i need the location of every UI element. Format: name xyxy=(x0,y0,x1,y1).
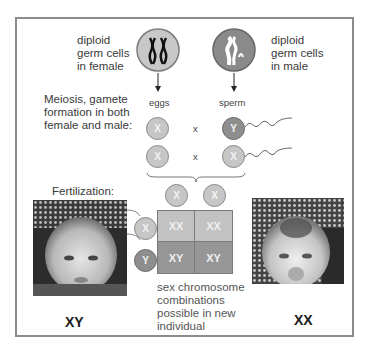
fertilization-label: Fertilization: xyxy=(52,185,114,198)
meiosis-label: Meiosis, gamete formation in both female… xyxy=(44,93,132,132)
label-line: in female xyxy=(77,60,129,73)
punnett-cell: XY xyxy=(195,242,232,273)
sperm-gamete: Y xyxy=(222,117,245,140)
punnett-side-y: Y xyxy=(134,249,157,272)
punnett-cell: XY xyxy=(158,242,195,273)
sperm-tails-icon xyxy=(244,115,294,165)
label-line: germ cells xyxy=(271,47,323,60)
label-line: sex chromosome xyxy=(157,281,245,294)
label-line: in male xyxy=(271,60,323,73)
egg-gamete: X xyxy=(146,145,169,168)
label-line: combinations xyxy=(157,294,245,307)
label-line: germ cells xyxy=(77,47,129,60)
arrow-to-eggs-icon xyxy=(157,73,159,93)
female-germ-cell-icon xyxy=(135,27,181,73)
baby-photo-xx xyxy=(252,198,344,284)
label-line: diploid xyxy=(271,34,323,47)
label-line: formation in both xyxy=(44,106,132,119)
label-line: diploid xyxy=(77,34,129,47)
combinations-label: sex chromosome combinations possible in … xyxy=(157,281,245,333)
punnett-side-x: X xyxy=(134,217,157,240)
punnett-top-x: X xyxy=(203,184,226,207)
punnett-cell: XX xyxy=(195,211,232,242)
punnett-top-x: X xyxy=(165,184,188,207)
baby-image-icon xyxy=(252,198,344,284)
egg-gamete: X xyxy=(146,117,169,140)
female-germ-label: diploid germ cells in female xyxy=(77,34,129,73)
cross-symbol: x xyxy=(193,150,198,163)
label-line: possible in new xyxy=(157,307,245,320)
label-line: Meiosis, gamete xyxy=(44,93,132,106)
arrow-to-sperm-icon xyxy=(233,73,235,93)
cross-symbol: x xyxy=(193,122,198,135)
baby-photo-xy xyxy=(33,200,127,296)
sperm-gamete: X xyxy=(222,145,245,168)
male-germ-label: diploid germ cells in male xyxy=(271,34,323,73)
xx-baby-label: XX xyxy=(294,312,313,328)
label-line: female and male: xyxy=(44,119,132,132)
punnett-square: XX XX XY XY xyxy=(157,210,233,274)
sperm-label: sperm xyxy=(219,96,245,109)
punnett-cell: XX xyxy=(158,211,195,242)
xy-baby-label: XY xyxy=(65,314,84,330)
brace-icon xyxy=(146,172,246,184)
male-germ-cell-icon xyxy=(211,27,257,73)
eggs-label: eggs xyxy=(149,96,170,109)
baby-image-icon xyxy=(33,200,127,296)
label-line: individual xyxy=(157,320,245,333)
